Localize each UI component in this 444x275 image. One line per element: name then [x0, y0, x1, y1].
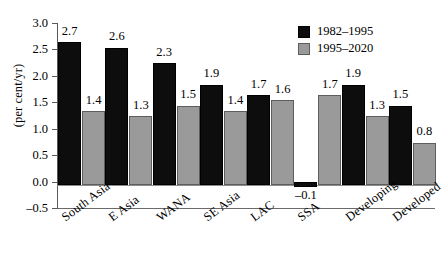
bar-group: 2.31.5: [153, 23, 200, 208]
bar-value-label: 1.5: [380, 88, 420, 101]
legend-label: 1995–2020: [317, 42, 373, 55]
y-axis-tick-label: 1.0: [2, 123, 48, 136]
bar[interactable]: [129, 116, 152, 185]
legend-item[interactable]: 1995–2020: [298, 41, 373, 56]
bar[interactable]: [177, 106, 200, 185]
legend-swatch-icon: [298, 26, 310, 38]
y-axis-tick-label: 3.0: [2, 17, 48, 30]
y-axis-tick-label: –0.5: [2, 202, 48, 215]
bar-value-label: 2.3: [144, 46, 184, 59]
bar[interactable]: [389, 106, 412, 185]
bar-value-label: 1.9: [333, 67, 373, 80]
bar-value-label: –0.1: [286, 189, 326, 202]
plot-area: 2.71.42.61.32.31.51.91.41.71.6–0.11.71.9…: [57, 23, 435, 208]
bar[interactable]: [366, 116, 389, 185]
bar[interactable]: [82, 111, 105, 185]
bar[interactable]: [58, 42, 81, 185]
bar[interactable]: [271, 100, 294, 185]
y-axis-tick: [52, 208, 58, 209]
bar-group: 1.71.6: [247, 23, 294, 208]
bar-group: 1.50.8: [389, 23, 436, 208]
y-axis-tick-label: 0.0: [2, 176, 48, 189]
x-axis-line: [57, 208, 435, 209]
legend-item[interactable]: 1982–1995: [298, 24, 373, 39]
legend: 1982–1995 1995–2020: [298, 24, 373, 58]
bar[interactable]: [105, 48, 128, 185]
bar-value-label: 2.6: [97, 30, 137, 43]
bar-value-label: 0.8: [404, 125, 444, 138]
bar-group: 1.91.4: [200, 23, 247, 208]
legend-label: 1982–1995: [317, 25, 373, 38]
bar-value-label: 2.7: [50, 25, 90, 38]
y-axis-tick-label: 2.0: [2, 70, 48, 83]
y-axis-tick-label: 2.5: [2, 43, 48, 56]
bar[interactable]: [294, 182, 317, 187]
y-axis-tick-label: 0.5: [2, 149, 48, 162]
bar[interactable]: [247, 95, 270, 185]
bar[interactable]: [153, 63, 176, 185]
y-axis-tick-label: 1.5: [2, 96, 48, 109]
bar[interactable]: [224, 111, 247, 185]
bar-group: 2.71.4: [58, 23, 105, 208]
bar[interactable]: [413, 143, 436, 185]
bar[interactable]: [318, 95, 341, 185]
legend-swatch-icon: [298, 43, 310, 55]
bar-value-label: 1.9: [191, 67, 231, 80]
